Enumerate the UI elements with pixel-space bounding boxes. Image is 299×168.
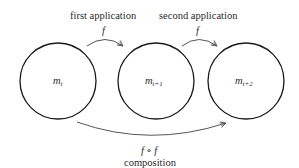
node-label: mt xyxy=(53,75,64,88)
edge-caption: first application xyxy=(70,10,137,21)
arrow-icon xyxy=(87,40,123,47)
edge-first-application: first application f xyxy=(70,10,137,46)
function-composition-diagram: mt mt+1 mt+2 first application f second … xyxy=(0,0,299,168)
edge-symbol: f xyxy=(102,25,107,36)
edge-symbol: f ∘ f xyxy=(141,145,159,156)
node-m-t-plus-1: mt+1 xyxy=(118,43,194,119)
edge-composition: f ∘ f composition xyxy=(77,122,226,168)
arrow-icon xyxy=(77,122,226,135)
arrow-icon xyxy=(182,40,217,47)
node-label: mt+2 xyxy=(235,75,253,88)
edge-symbol: f xyxy=(196,25,201,36)
edge-caption: composition xyxy=(124,157,177,168)
node-m-t: mt xyxy=(20,43,96,119)
node-label: mt+1 xyxy=(145,75,163,88)
edge-second-application: second application f xyxy=(159,10,238,46)
edge-caption: second application xyxy=(159,10,238,21)
node-m-t-plus-2: mt+2 xyxy=(208,43,284,119)
